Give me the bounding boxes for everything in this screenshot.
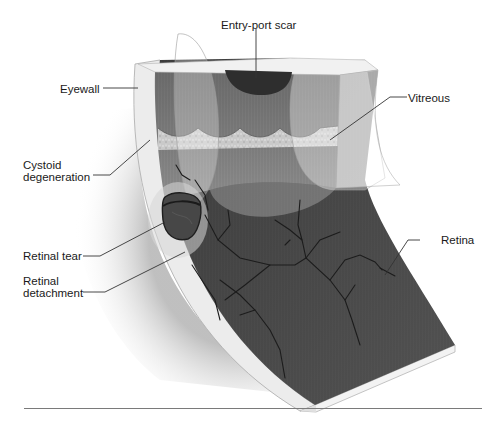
label-entry-port-scar: Entry-port scar <box>221 19 296 31</box>
label-vitreous: Vitreous <box>408 92 450 104</box>
label-retinal-tear: Retinal tear <box>23 250 82 262</box>
label-retina: Retina <box>441 234 474 246</box>
figure-divider-rule <box>24 408 482 409</box>
eye-cutaway-figure: Entry-port scar Eyewall Vitreous Cystoid… <box>0 0 501 431</box>
eye-cutaway-illustration <box>0 0 501 431</box>
retinal-tear <box>148 182 208 258</box>
label-eyewall: Eyewall <box>60 83 100 95</box>
label-retinal-detachment: Retinal detachment <box>23 275 83 299</box>
label-cystoid-degeneration: Cystoid degeneration <box>23 159 90 183</box>
